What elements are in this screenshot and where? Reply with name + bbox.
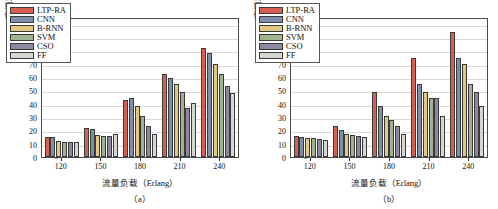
- bar-b-rnn-180[interactable]: [384, 116, 389, 157]
- x-tick-label: 240: [199, 162, 239, 171]
- bar-svm-210[interactable]: [180, 92, 185, 157]
- panel-caption-b: （b）: [290, 192, 488, 204]
- bar-b-rnn-240[interactable]: [462, 64, 467, 157]
- bar-ltp-ra-210[interactable]: [162, 74, 167, 157]
- bar-ltp-ra-240[interactable]: [450, 32, 455, 157]
- x-tick-mark: [468, 158, 469, 161]
- bar-svm-240[interactable]: [219, 74, 224, 157]
- bar-group-150: [330, 19, 369, 157]
- x-tick-mark: [140, 158, 141, 161]
- x-tick-mark: [219, 158, 220, 161]
- bar-cso-210[interactable]: [185, 108, 190, 157]
- x-tick-150: 150: [81, 158, 121, 174]
- x-tick-label: 150: [81, 162, 121, 171]
- bar-ff-150[interactable]: [113, 134, 118, 157]
- bar-cnn-210[interactable]: [417, 84, 422, 157]
- bar-cnn-120[interactable]: [299, 137, 304, 157]
- bar-ff-120[interactable]: [323, 140, 328, 157]
- y-tick-label: 50: [278, 87, 286, 96]
- bar-ltp-ra-120[interactable]: [294, 136, 299, 157]
- bar-cnn-150[interactable]: [339, 130, 344, 157]
- bar-cso-240[interactable]: [474, 92, 479, 157]
- y-tick-label: 40: [29, 100, 37, 109]
- x-tick-label: 210: [160, 162, 200, 171]
- bar-ltp-ra-150[interactable]: [333, 126, 338, 157]
- x-tick-180: 180: [369, 158, 409, 174]
- bar-cso-180[interactable]: [146, 126, 151, 157]
- x-tick-mark: [310, 158, 311, 161]
- bar-ltp-ra-210[interactable]: [411, 58, 416, 157]
- y-tick-label: 60: [278, 74, 286, 83]
- bar-svm-150[interactable]: [101, 136, 106, 157]
- bar-cnn-180[interactable]: [129, 98, 134, 157]
- x-tick-label: 120: [290, 162, 330, 171]
- bar-ff-210[interactable]: [440, 116, 445, 157]
- legend-a: LTP-RACNNB-RNNSVMCSOFF: [6, 3, 71, 63]
- y-tick-label: 10: [278, 140, 286, 149]
- bar-cnn-210[interactable]: [168, 78, 173, 157]
- bar-cnn-180[interactable]: [378, 106, 383, 157]
- y-tick-label: 10: [29, 140, 37, 149]
- x-axis-title-b: 流量负载（Erlang）: [290, 176, 488, 188]
- legend-item-ff[interactable]: FF: [259, 51, 315, 60]
- bar-ff-120[interactable]: [74, 142, 79, 157]
- bar-b-rnn-120[interactable]: [56, 141, 61, 157]
- bar-cnn-120[interactable]: [50, 137, 55, 157]
- bar-b-rnn-210[interactable]: [174, 84, 179, 157]
- x-tick-mark: [389, 158, 390, 161]
- bar-group-180: [369, 19, 408, 157]
- bar-ltp-ra-180[interactable]: [372, 92, 377, 157]
- bar-svm-240[interactable]: [468, 84, 473, 157]
- bar-cnn-240[interactable]: [207, 53, 212, 157]
- x-tick-label: 180: [369, 162, 409, 171]
- bar-cso-240[interactable]: [225, 86, 230, 157]
- bar-ff-180[interactable]: [401, 134, 406, 157]
- y-tick-label: 50: [29, 87, 37, 96]
- bar-b-rnn-240[interactable]: [213, 64, 218, 157]
- legend-swatch-icon: [259, 7, 283, 14]
- bar-cso-120[interactable]: [317, 139, 322, 157]
- bar-svm-150[interactable]: [350, 135, 355, 157]
- x-tick-mark: [100, 158, 101, 161]
- bar-ff-180[interactable]: [152, 134, 157, 157]
- bar-b-rnn-150[interactable]: [95, 135, 100, 157]
- x-tick-210: 210: [160, 158, 200, 174]
- bar-svm-180[interactable]: [140, 116, 145, 157]
- bar-b-rnn-180[interactable]: [135, 106, 140, 157]
- y-tick-label: 20: [278, 127, 286, 136]
- legend-label: FF: [37, 51, 46, 60]
- bar-cnn-150[interactable]: [90, 129, 95, 157]
- bar-ff-240[interactable]: [479, 106, 484, 157]
- bar-ltp-ra-180[interactable]: [123, 100, 128, 157]
- y-tick-label: 30: [278, 114, 286, 123]
- legend-swatch-icon: [10, 34, 34, 41]
- bar-ltp-ra-240[interactable]: [201, 48, 206, 157]
- bar-cso-120[interactable]: [68, 142, 73, 157]
- bar-ltp-ra-120[interactable]: [45, 137, 50, 157]
- bar-ltp-ra-150[interactable]: [84, 128, 89, 157]
- bar-ff-240[interactable]: [230, 93, 235, 157]
- bar-svm-180[interactable]: [389, 120, 394, 157]
- bar-groups-b: [291, 19, 487, 157]
- x-tick-label: 180: [120, 162, 160, 171]
- x-tick-mark: [429, 158, 430, 161]
- bar-cso-180[interactable]: [395, 126, 400, 157]
- bar-ff-150[interactable]: [362, 137, 367, 157]
- bar-cso-150[interactable]: [107, 136, 112, 157]
- bar-svm-120[interactable]: [62, 142, 67, 157]
- legend-swatch-icon: [259, 25, 283, 32]
- y-tick-label: 60: [29, 74, 37, 83]
- bar-svm-210[interactable]: [429, 98, 434, 157]
- bar-ff-210[interactable]: [191, 103, 196, 157]
- bar-cso-210[interactable]: [434, 98, 439, 157]
- bar-svm-120[interactable]: [311, 138, 316, 157]
- bar-b-rnn-120[interactable]: [305, 138, 310, 157]
- bar-cnn-240[interactable]: [456, 58, 461, 157]
- bar-cso-150[interactable]: [356, 136, 361, 157]
- panel-caption-a: （a）: [41, 192, 239, 204]
- legend-item-ff[interactable]: FF: [10, 51, 66, 60]
- bar-b-rnn-150[interactable]: [344, 134, 349, 157]
- bar-b-rnn-210[interactable]: [423, 92, 428, 157]
- legend-swatch-icon: [259, 34, 283, 41]
- y-tick-label: 0: [33, 154, 37, 163]
